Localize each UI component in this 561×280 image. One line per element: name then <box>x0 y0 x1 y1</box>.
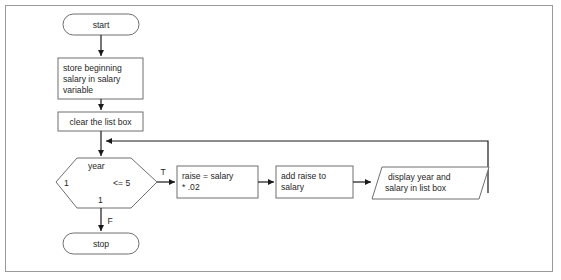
node-decision[interactable]: year 1 <= 5 1 <box>56 158 157 208</box>
node-start[interactable]: start <box>63 14 139 35</box>
node-store-salary[interactable]: store beginning salary in salary variabl… <box>58 58 143 99</box>
node-clear-list-label: clear the list box <box>69 117 132 127</box>
flowchart-canvas: start store beginning salary in salary v… <box>0 0 561 280</box>
node-add-raise-label-line2: salary <box>281 182 305 192</box>
node-store-salary-label-line2: salary in salary <box>63 74 121 84</box>
node-display-output[interactable]: display year and salary in list box <box>372 167 489 199</box>
node-store-salary-label-line1: store beginning <box>63 63 122 73</box>
node-clear-list[interactable]: clear the list box <box>58 112 143 131</box>
node-raise-calc-label-line2: * .02 <box>182 182 200 192</box>
node-decision-left-label: 1 <box>64 178 69 188</box>
node-store-salary-label-line3: variable <box>63 85 93 95</box>
node-stop-label: stop <box>93 239 109 249</box>
node-decision-bottom-label: 1 <box>98 195 103 205</box>
node-stop[interactable]: stop <box>63 233 139 254</box>
node-display-output-label-line2: salary in list box <box>385 183 447 193</box>
node-display-output-label-line1: display year and <box>388 172 451 182</box>
flowchart-diagram: start store beginning salary in salary v… <box>0 0 561 280</box>
edge-label-true: T <box>160 167 166 177</box>
node-add-raise[interactable]: add raise to salary <box>276 166 353 198</box>
node-decision-right-label: <= 5 <box>113 178 130 188</box>
node-start-label: start <box>93 20 110 30</box>
edge-label-false: F <box>107 216 112 226</box>
node-raise-calc-label-line1: raise = salary <box>182 171 234 181</box>
node-decision-top-label: year <box>88 161 105 171</box>
node-raise-calc[interactable]: raise = salary * .02 <box>177 166 258 198</box>
node-add-raise-label-line1: add raise to <box>281 171 326 181</box>
